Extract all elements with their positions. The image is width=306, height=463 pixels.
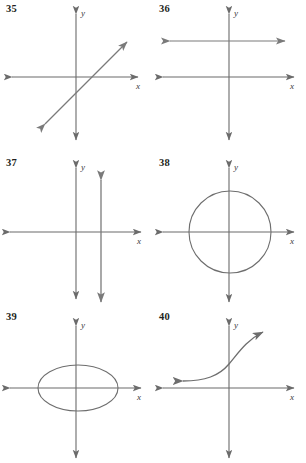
- x-axis-label-40: x: [289, 392, 294, 402]
- x-axis-label-38: x: [289, 236, 294, 246]
- x-axis-label-39: x: [136, 392, 141, 402]
- graph-svg-37: x y: [0, 154, 153, 309]
- x-axis-label-36: x: [289, 81, 294, 91]
- graph-svg-36: x y: [153, 0, 306, 155]
- graph-svg-40: x y: [153, 308, 306, 463]
- y-axis-label-39: y: [80, 320, 85, 330]
- figure-sheet: 35 x y 36: [0, 0, 306, 463]
- y-axis-label-40: y: [233, 320, 238, 330]
- curve-line-35: [45, 42, 127, 124]
- y-axis-label-38: y: [233, 162, 238, 172]
- y-axis-label-37: y: [80, 162, 85, 172]
- graph-panel-40: 40 x y: [153, 308, 306, 463]
- graph-panel-35: 35 x y: [0, 0, 153, 155]
- y-axis-label-36: y: [233, 8, 238, 18]
- graph-svg-38: x y: [153, 154, 306, 309]
- graph-panel-39: 39 x y: [0, 308, 153, 463]
- graph-panel-38: 38 x y: [153, 154, 306, 309]
- curve-exponential-40: [183, 332, 263, 381]
- graph-panel-37: 37 x y: [0, 154, 153, 309]
- graph-svg-35: x y: [0, 0, 153, 155]
- graph-panel-36: 36 x y: [153, 0, 306, 155]
- x-axis-label-37: x: [136, 236, 141, 246]
- graph-svg-39: x y: [0, 308, 153, 463]
- y-axis-label-35: y: [80, 8, 85, 18]
- x-axis-label-35: x: [135, 81, 140, 91]
